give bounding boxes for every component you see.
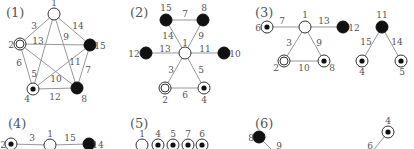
node-label: 2 (273, 63, 279, 73)
node-label: 4 (385, 116, 391, 126)
edge-weight-label: 9 (63, 32, 69, 42)
node-label: 8 (81, 94, 87, 104)
node-label: 6 (199, 129, 205, 139)
node-5-target: 5 (395, 55, 407, 77)
node-label: 4 (359, 67, 365, 77)
node-label: 2 (0, 140, 6, 149)
panel-label: (3) (255, 5, 273, 20)
center-dot-icon (185, 142, 190, 147)
edge-weight-label: 3 (29, 133, 35, 143)
node-2-double: 2 (159, 82, 171, 105)
node-label: 1 (51, 0, 57, 8)
node-2-target: 2 (0, 138, 17, 149)
edge-weight-label: 5 (198, 65, 204, 75)
node-label: 1 (182, 38, 188, 48)
node-label: 4 (201, 95, 207, 105)
panel-label: (6) (255, 116, 273, 131)
edge-weight-label: 9 (276, 141, 282, 149)
black-node-icon (337, 21, 349, 33)
node-label: 1 (47, 129, 53, 139)
node-label: 14 (92, 140, 104, 149)
node-15-black: 15 (84, 39, 106, 51)
panel-label: (1) (6, 5, 24, 20)
center-dot-icon (321, 58, 326, 63)
node-label: 2 (162, 95, 168, 105)
edge-weight-label: 13 (32, 36, 44, 46)
node-label: 8 (201, 3, 207, 13)
node-label: 15 (160, 3, 172, 13)
center-dot-icon (170, 142, 175, 147)
center-dot-icon (155, 142, 160, 147)
edge-weight-label: 11 (199, 44, 210, 54)
nodes: 14576 (136, 129, 208, 149)
black-node-icon (218, 47, 230, 59)
black-node-icon (376, 21, 388, 33)
node-2-double: 2 (273, 55, 290, 73)
edge-weight-label: 14 (162, 31, 174, 41)
node-8-black: 8 (197, 3, 209, 26)
center-dot-icon (359, 58, 364, 63)
node-1-white: 1 (48, 0, 60, 20)
node-label: 5 (170, 129, 176, 139)
graph-panel-2: (2)714913113561581121024 (128, 3, 241, 105)
center-dot-icon (385, 129, 390, 134)
edge-weight-label: 15 (64, 133, 76, 143)
node-label: 10 (229, 49, 241, 59)
white-node-icon (44, 139, 56, 149)
white-node-icon (136, 139, 148, 149)
node-1-white: 1 (136, 129, 148, 149)
graph-panel-3: (3)713391015146112281145 (255, 5, 407, 77)
edge-4-8 (33, 88, 77, 89)
edge-weight-label: 14 (391, 37, 403, 47)
edges: 96 (259, 132, 388, 149)
node-5-target: 5 (167, 129, 179, 149)
node-8-target: 8 (318, 55, 335, 73)
node-label: 4 (24, 94, 30, 104)
edge-weight-label: 5 (31, 69, 37, 79)
edge-weight-label: 15 (360, 37, 372, 47)
node-10-black: 10 (218, 47, 241, 59)
edge-weight-label: 6 (16, 58, 22, 68)
node-label: 1 (302, 10, 308, 20)
black-node-icon (253, 131, 265, 143)
edge-weight-label: 14 (72, 21, 84, 31)
edge-weight-label: 6 (367, 141, 373, 149)
center-dot-icon (199, 142, 204, 147)
node-label: 4 (155, 129, 161, 139)
graph-panel-4: (4)3152114 (0, 116, 104, 149)
node-6-target: 6 (255, 21, 273, 33)
graph-panel-6: (6)9684 (248, 116, 394, 149)
white-node-icon (179, 47, 191, 59)
center-dot-icon (201, 85, 206, 90)
center-dot-icon (264, 24, 269, 29)
edge-weight-label: 3 (168, 65, 174, 75)
node-label: 7 (185, 129, 191, 139)
node-label: 6 (255, 23, 261, 33)
edge-weight-label: 6 (182, 90, 188, 100)
node-label: 12 (348, 23, 359, 33)
black-node-icon (140, 47, 152, 59)
edge-weight-label: 13 (159, 44, 171, 54)
node-6-target: 6 (196, 129, 208, 149)
edge-weight-label: 3 (286, 38, 292, 48)
center-dot-icon (398, 58, 403, 63)
black-node-icon (197, 14, 209, 26)
node-4-target: 4 (198, 82, 210, 105)
node-2-double: 2 (8, 38, 26, 50)
edge-weight-label: 12 (49, 92, 60, 102)
node-1-white: 1 (44, 129, 56, 149)
white-node-icon (48, 8, 60, 20)
node-4-target: 4 (356, 55, 368, 77)
edge-weight-label: 11 (69, 57, 80, 67)
edge-weight-label: 9 (316, 38, 322, 48)
node-8-black: 8 (248, 131, 265, 143)
node-12-black: 12 (337, 21, 360, 33)
nodes: 6112281145 (255, 10, 407, 77)
node-label: 15 (94, 41, 106, 51)
graph-diagrams-canvas: (1)314591361011712121548(2)7149131135615… (0, 0, 414, 149)
edge-weight-label: 7 (85, 65, 91, 75)
node-8-black: 8 (71, 82, 87, 104)
edge-weight-label: 3 (31, 21, 37, 31)
node-15-black: 15 (160, 3, 172, 26)
edge-weight-label: 7 (182, 9, 188, 19)
